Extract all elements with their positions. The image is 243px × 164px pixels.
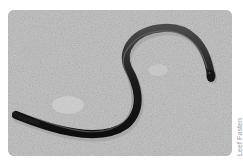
creature-photo-illustration [8,10,232,156]
creature-head [207,70,216,82]
eye [209,72,211,74]
photo-credit: Leef Fasten [236,118,243,156]
photo [8,10,232,156]
